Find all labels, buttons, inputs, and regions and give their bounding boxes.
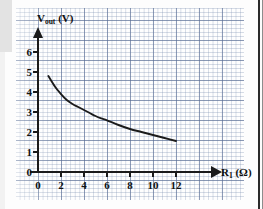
y-tick-label: 2 — [18, 127, 32, 138]
x-tick-label: 6 — [97, 180, 117, 191]
x-tick-mark — [175, 171, 177, 177]
x-axis-title-symbol: R — [221, 166, 229, 178]
x-tick-label: 8 — [120, 180, 140, 191]
x-tick-mark — [83, 171, 85, 177]
x-axis-title-subscript: 1 — [229, 171, 233, 180]
y-tick-label: 4 — [18, 87, 32, 98]
y-axis-title-symbol: V — [37, 12, 45, 24]
y-axis-title: Vout (V) — [37, 12, 73, 26]
y-tick-mark — [33, 71, 39, 73]
y-tick-mark — [33, 131, 39, 133]
y-tick-mark — [33, 91, 39, 93]
page-right-rule — [258, 0, 260, 209]
x-tick-label: 12 — [166, 180, 186, 191]
x-tick-mark — [60, 171, 62, 177]
x-axis-line — [30, 171, 216, 173]
y-axis-title-unit: (V) — [58, 12, 73, 24]
x-tick-label: 2 — [51, 180, 71, 191]
y-tick-label: 0 — [18, 167, 32, 178]
x-tick-label: 4 — [74, 180, 94, 191]
x-tick-label: 0 — [28, 180, 48, 191]
page-corner-shadow — [0, 0, 12, 52]
y-tick-label: 5 — [18, 67, 32, 78]
y-tick-mark — [33, 111, 39, 113]
y-axis-arrow-icon — [33, 27, 43, 38]
x-tick-mark — [106, 171, 108, 177]
x-tick-mark — [129, 171, 131, 177]
page-right-edge — [262, 0, 263, 209]
y-tick-label: 6 — [18, 47, 32, 58]
y-tick-label: 1 — [18, 147, 32, 158]
y-axis-title-subscript: out — [45, 17, 55, 26]
y-tick-mark — [33, 51, 39, 53]
x-axis-title: R1 (Ω) — [221, 166, 252, 180]
y-tick-mark — [33, 151, 39, 153]
x-axis-title-unit: (Ω) — [235, 166, 251, 178]
x-tick-mark — [152, 171, 154, 177]
y-tick-label: 3 — [18, 107, 32, 118]
x-tick-label: 10 — [143, 180, 163, 191]
chart-canvas: Vout (V) R1 (Ω) 0123456 024681012 — [0, 0, 263, 209]
